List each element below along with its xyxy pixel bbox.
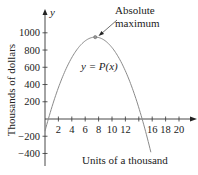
y-tick-label: 800 [24,45,40,56]
y-axis-symbol: y [49,6,55,18]
profit-chart: y 1000800600400200−200−400 2468101216182… [0,0,198,175]
y-tick-label: 1000 [19,27,40,38]
curve-label: y = P(x) [80,60,118,73]
x-tick-label: 4 [69,124,75,135]
x-tick-label: 8 [96,124,101,135]
y-tick-label: −200 [18,131,40,142]
y-axis-label: Thousands of dollars [5,44,17,136]
y-tick-label: 600 [24,62,40,73]
y-tick-label: 400 [24,79,40,90]
y-tick-label: −400 [18,148,40,159]
x-axis-label: Units of a thousand [82,154,168,166]
x-tick-label: 20 [174,124,185,135]
annotation-absolute: Absolute [115,4,155,16]
y-axis-ticks: 1000800600400200−200−400 [18,27,47,159]
y-axis-arrow-icon [43,9,48,15]
annotation-maximum: maximum [115,17,160,29]
x-tick-label: 2 [56,124,61,135]
y-tick-label: 200 [24,96,40,107]
absolute-maximum-point [94,36,97,39]
x-tick-label: 16 [147,124,158,135]
x-tick-label: 12 [120,124,131,135]
x-tick-label: 10 [107,124,118,135]
x-axis-arrow-icon [190,117,197,122]
x-tick-label: 18 [160,124,171,135]
x-tick-label: 6 [83,124,88,135]
